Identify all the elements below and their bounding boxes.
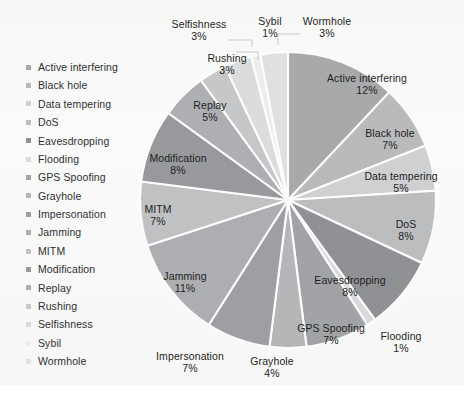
slice-label-wormhole: Wormhole 3% <box>290 15 364 40</box>
legend-item-label: Active interfering <box>38 62 118 73</box>
legend-item[interactable]: Black hole <box>26 76 150 94</box>
legend-item-label: Impersonation <box>38 209 106 220</box>
legend-swatch-icon <box>26 285 31 290</box>
legend-item-label: Wormhole <box>38 356 86 367</box>
slice-label-active-interfering: Active interfering 12% <box>307 72 427 97</box>
legend-item-label: DoS <box>38 117 59 128</box>
slice-label-value: 8% <box>376 230 436 242</box>
pie-chart-figure: Active interferingBlack holeData temperi… <box>0 0 464 385</box>
legend-item[interactable]: Modification <box>26 260 150 278</box>
slice-label-grayhole: Grayhole 4% <box>237 355 307 380</box>
slice-label-name: Impersonation <box>156 350 224 362</box>
slice-label-value: 5% <box>346 182 456 194</box>
legend-item[interactable]: MITM <box>26 242 150 260</box>
slice-label-name: Grayhole <box>250 355 293 367</box>
slice-label-value: 4% <box>237 367 307 379</box>
slice-label-name: Sybil <box>258 15 281 27</box>
legend-swatch-icon <box>26 157 31 162</box>
legend-item[interactable]: Replay <box>26 279 150 297</box>
legend-swatch-icon <box>26 193 31 198</box>
legend-swatch-icon <box>26 304 31 309</box>
slice-label-name: Jamming <box>163 270 206 282</box>
legend-item[interactable]: Rushing <box>26 297 150 315</box>
legend-item[interactable]: Data tempering <box>26 95 150 113</box>
slice-label-flooding: Flooding 1% <box>364 330 438 355</box>
legend-item[interactable]: Selfishness <box>26 315 150 333</box>
slice-label-value: 3% <box>159 30 239 42</box>
slice-label-value: 1% <box>246 27 294 39</box>
legend-item-label: Black hole <box>38 80 87 91</box>
slice-label-dos: DoS 8% <box>376 218 436 243</box>
slice-label-black-hole: Black hole 7% <box>345 127 435 152</box>
legend-swatch-icon <box>26 101 31 106</box>
legend-item-label: Jamming <box>38 227 81 238</box>
slice-label-sybil: Sybil 1% <box>246 15 294 40</box>
slice-label-value: 5% <box>179 111 241 123</box>
slice-label-value: 7% <box>289 334 373 346</box>
slice-label-modification: Modification 8% <box>132 152 224 177</box>
slice-label-name: Black hole <box>365 127 414 139</box>
slice-label-data-tempering: Data tempering 5% <box>346 170 456 195</box>
slice-label-value: 7% <box>128 215 188 227</box>
legend-item[interactable]: DoS <box>26 113 150 131</box>
legend-swatch-icon <box>26 359 31 364</box>
slice-label-name: MITM <box>144 203 171 215</box>
slice-label-eavesdropping: Eavesdropping 8% <box>298 274 402 299</box>
legend-item[interactable]: Sybil <box>26 334 150 352</box>
legend-item-label: Eavesdropping <box>38 136 109 147</box>
slice-label-name: Wormhole <box>303 15 351 27</box>
legend-swatch-icon <box>26 175 31 180</box>
legend-swatch-icon <box>26 83 31 88</box>
slice-label-name: Rushing <box>207 52 246 64</box>
legend-item[interactable]: Wormhole <box>26 352 150 370</box>
slice-label-value: 12% <box>307 84 427 96</box>
slice-label-name: Flooding <box>380 330 421 342</box>
slice-label-value: 3% <box>290 27 364 39</box>
slice-label-gps-spoofing: GPS Spoofing 7% <box>289 322 373 347</box>
legend-swatch-icon <box>26 230 31 235</box>
legend-item-label: Modification <box>38 264 95 275</box>
legend-item-label: Grayhole <box>38 191 81 202</box>
legend-item-label: Sybil <box>38 338 61 349</box>
slice-label-name: Active interfering <box>327 72 407 84</box>
slice-label-name: Replay <box>193 99 226 111</box>
slice-label-value: 8% <box>298 286 402 298</box>
slice-label-name: Selfishness <box>172 18 227 30</box>
legend-item-label: Data tempering <box>38 99 111 110</box>
legend-item-label: Replay <box>38 283 71 294</box>
legend-swatch-icon <box>26 322 31 327</box>
slice-label-value: 1% <box>364 342 438 354</box>
legend-swatch-icon <box>26 212 31 217</box>
legend-swatch-icon <box>26 138 31 143</box>
legend-item-label: Rushing <box>38 301 77 312</box>
slice-label-value: 7% <box>139 362 241 374</box>
slice-label-rushing: Rushing 3% <box>193 52 261 77</box>
slice-label-mitm: MITM 7% <box>128 203 188 228</box>
slice-label-value: 7% <box>345 139 435 151</box>
legend-item[interactable]: Active interfering <box>26 58 150 76</box>
legend-item[interactable]: Eavesdropping <box>26 132 150 150</box>
slice-label-jamming: Jamming 11% <box>147 270 223 295</box>
legend-swatch-icon <box>26 120 31 125</box>
slice-label-value: 8% <box>132 164 224 176</box>
legend-swatch-icon <box>26 341 31 346</box>
legend-item-label: GPS Spoofing <box>38 172 106 183</box>
slice-label-selfishness: Selfishness 3% <box>159 18 239 43</box>
legend-item-label: Flooding <box>38 154 79 165</box>
legend-swatch-icon <box>26 65 31 70</box>
slice-label-name: Data tempering <box>364 170 437 182</box>
slice-label-replay: Replay 5% <box>179 99 241 124</box>
slice-label-name: DoS <box>396 218 417 230</box>
legend-swatch-icon <box>26 249 31 254</box>
slice-label-impersonation: Impersonation 7% <box>139 350 241 375</box>
slice-label-name: Eavesdropping <box>314 274 385 286</box>
legend-item-label: Selfishness <box>38 319 93 330</box>
slice-label-name: Modification <box>149 152 206 164</box>
legend-swatch-icon <box>26 267 31 272</box>
slice-label-value: 3% <box>193 64 261 76</box>
legend-item-label: MITM <box>38 246 65 257</box>
slice-label-value: 11% <box>147 282 223 294</box>
slice-label-name: GPS Spoofing <box>297 322 365 334</box>
